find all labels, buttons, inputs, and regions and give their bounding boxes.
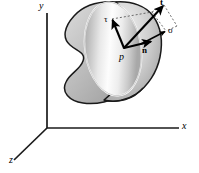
axis-z-line [14,128,47,160]
vector-label-sigma: σ [168,26,173,35]
vector-label-t: t [160,0,163,7]
dash-t-to-right [164,5,177,26]
axis-label-x: x [182,121,186,131]
axis-label-y: y [39,1,43,11]
stress-vector-diagram: y x z t τ n σ p [0,0,199,173]
vector-label-n: n [142,46,147,55]
point-p-marker [123,47,125,49]
vector-label-tau: τ [104,15,108,24]
axis-label-z: z [9,155,13,165]
point-label-p: p [119,52,124,62]
